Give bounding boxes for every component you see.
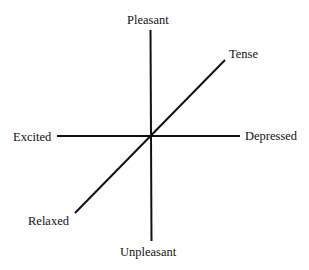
label-excited: Excited xyxy=(13,130,51,144)
label-unpleasant: Unpleasant xyxy=(120,245,176,259)
label-pleasant: Pleasant xyxy=(127,13,169,27)
label-relaxed: Relaxed xyxy=(28,214,69,228)
mood-axes-diagram: Pleasant Tense Excited Depressed Relaxed… xyxy=(0,0,309,270)
label-tense: Tense xyxy=(229,47,258,61)
label-depressed: Depressed xyxy=(245,129,297,143)
